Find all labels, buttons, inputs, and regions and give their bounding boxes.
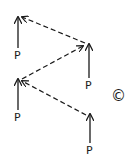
dashed-arrow-p3-to-p2 <box>22 46 83 79</box>
panel-label-c: © <box>111 89 126 104</box>
node-label-p1: P <box>14 50 21 61</box>
dashed-arrow-p2-to-p1 <box>22 17 85 43</box>
arrow-diagram <box>0 0 136 162</box>
node-label-p4: P <box>86 145 93 156</box>
dashed-arrow-p4-to-p3 <box>22 81 86 115</box>
node-label-p2: P <box>85 80 92 91</box>
node-label-p3: P <box>14 112 21 123</box>
diagram-canvas: P P P P © <box>0 0 136 162</box>
